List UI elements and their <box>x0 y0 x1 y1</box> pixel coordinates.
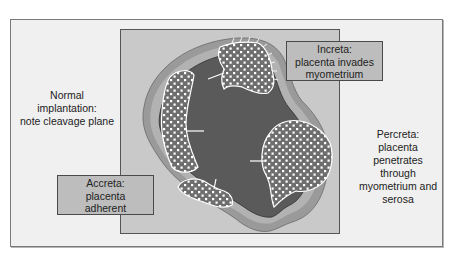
label-line: adherent <box>58 202 153 215</box>
label-line: placenta invades <box>287 56 382 69</box>
label-normal-implantation: Normal implantation: note cleavage plane <box>14 89 120 128</box>
label-line: placenta <box>352 141 444 154</box>
label-line: Normal <box>14 89 120 102</box>
label-increta: Increta: placenta invades myometrium <box>286 41 383 81</box>
label-line: penetrates <box>352 154 444 167</box>
label-line: Increta: <box>287 43 382 56</box>
label-line: Percreta: <box>352 128 444 141</box>
label-line: Accreta: <box>58 177 153 190</box>
label-line: placenta <box>58 190 153 203</box>
label-line: serosa <box>352 193 444 206</box>
label-line: implantation: <box>14 102 120 115</box>
label-accreta: Accreta: placenta adherent <box>57 175 154 215</box>
label-percreta: Percreta: placenta penetrates through my… <box>352 128 444 206</box>
label-line: note cleavage plane <box>14 115 120 128</box>
label-line: myometrium <box>287 68 382 81</box>
label-line: through <box>352 167 444 180</box>
label-line: myometrium and <box>352 180 444 193</box>
